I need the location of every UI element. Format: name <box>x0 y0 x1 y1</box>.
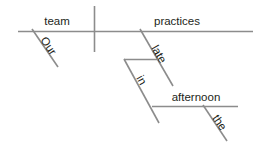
label-article: the <box>210 112 229 132</box>
label-subject-modifier: Our <box>38 34 59 57</box>
sentence-diagram: team practices Our late in afternoon the <box>0 0 265 146</box>
diagram-canvas: team practices Our late in afternoon the <box>0 0 265 146</box>
label-preposition: in <box>134 73 149 87</box>
preposition-line-in <box>124 59 159 123</box>
label-object-of-preposition: afternoon <box>172 91 221 103</box>
label-adverb: late <box>149 43 169 65</box>
label-subject: team <box>44 15 70 27</box>
label-verb: practices <box>154 15 200 27</box>
